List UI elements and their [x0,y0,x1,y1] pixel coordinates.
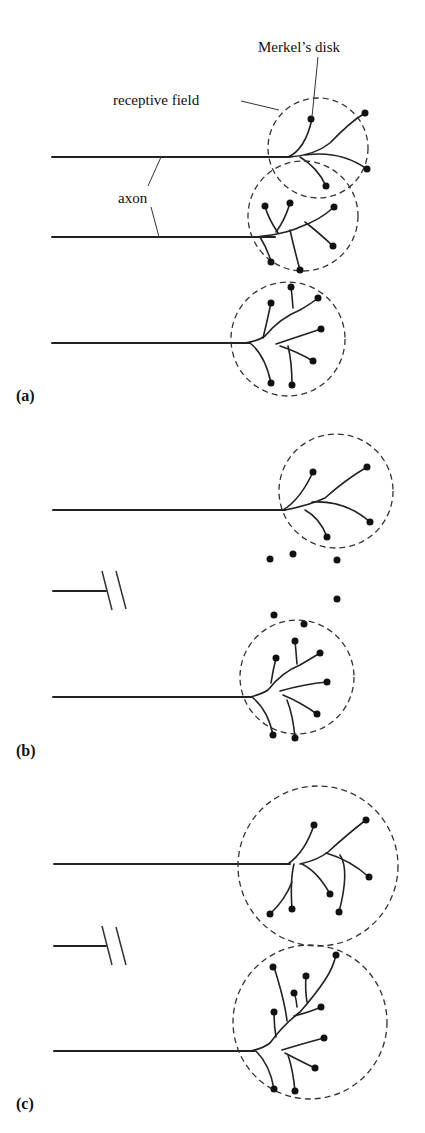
merkel-disk-denervated [301,621,308,628]
panel-b: (b) [16,434,393,760]
merkel-disk [271,1086,278,1093]
merkel-disk [310,469,317,476]
label-receptive-field: receptive field [113,92,200,108]
merkel-disk [363,817,370,824]
merkel-disk-denervated [271,612,278,619]
severed-axon-c [54,926,126,965]
merkel-disk [287,200,294,207]
receptive-field-circle [233,945,387,1099]
merkel-disk [273,655,280,662]
merkel-disk [321,1035,328,1042]
merkel-disk [324,679,331,686]
receptive-field-circle [240,620,354,734]
cut-mark-2 [116,571,126,609]
merkel-disk [312,1065,319,1072]
merkel-disk [262,203,269,210]
merkel-disk [333,952,340,959]
panel-label-a: (a) [16,387,35,405]
panel-label-b: (b) [16,742,36,760]
merkel-disk [336,909,343,916]
merkel-disk [315,295,322,302]
merkel-disk [366,874,373,881]
axon-unit-c1 [54,786,398,946]
merkel-disk [268,380,275,387]
merkels-disks [268,284,325,389]
merkel-disk [331,204,338,211]
leader-axon-lower [151,207,159,237]
receptive-field-circle [268,98,368,198]
merkels-disks [308,110,371,190]
merkel-disk [323,183,330,190]
merkels-disks [270,638,331,742]
merkel-disk [270,964,277,971]
denervated-merkels-disks [267,551,341,628]
merkel-disk [310,358,317,365]
nerve-terminal-branches [245,287,321,385]
merkel-disk [318,326,325,333]
merkel-receptive-field-figure: Merkel’s disk receptive field axon (a) [0,0,425,1133]
merkel-disk [303,973,310,980]
merkel-disk [268,300,275,307]
axon-unit-b1 [53,434,393,548]
merkel-disk-denervated [267,556,274,563]
panel-a: Merkel’s disk receptive field axon (a) [16,39,371,405]
leader-axon-upper [148,157,161,186]
merkel-disk [267,911,274,918]
label-merkels-disk: Merkel’s disk [258,39,341,55]
merkel-disk-denervated [334,596,341,603]
axon-unit-a1 [52,98,371,198]
axon-unit-a3 [52,282,345,396]
nerve-terminal-branches [270,820,369,914]
merkel-disk-denervated [290,551,297,558]
axon-unit-b2 [53,620,354,742]
merkel-disk [308,116,315,123]
merkel-disk [311,822,318,829]
panel-label-c: (c) [16,1095,34,1113]
merkel-disk-denervated [334,557,341,564]
merkel-disk [364,464,371,471]
merkel-disk [291,990,298,997]
axon-unit-a2 [52,161,358,274]
merkel-disk [292,1088,299,1095]
axon-unit-c2 [54,945,387,1099]
merkel-disk [330,243,337,250]
merkel-disk [362,110,369,117]
merkel-disk [289,906,296,913]
merkel-disk [364,166,371,173]
merkel-disk [289,382,296,389]
merkel-disk [314,711,321,718]
label-axon: axon [118,190,148,206]
severed-axon-b [53,571,126,610]
receptive-field-circle [279,434,393,548]
receptive-field-circle [248,161,358,271]
merkel-disk [324,534,331,541]
merkel-disk [367,519,374,526]
merkel-disk [317,650,324,657]
merkel-disk [327,891,334,898]
leader-receptive-field [241,101,279,110]
receptive-field-circle [231,282,345,396]
cut-mark-2 [116,927,126,965]
nerve-terminal-branches [283,467,370,537]
merkel-disk [270,732,277,739]
merkel-disk [292,638,299,645]
leader-merkels-disk [312,57,318,117]
merkel-disk [271,1009,278,1016]
nerve-terminal-branches [288,113,367,186]
nerve-terminal-branches [250,641,327,738]
merkel-disk [288,284,295,291]
receptive-field-circle [238,786,398,946]
nerve-terminal-branches [250,955,336,1091]
merkel-disk [318,1004,325,1011]
merkel-disk [292,735,299,742]
merkel-disk [297,267,304,274]
merkel-disk [268,259,275,266]
panel-c: (c) [16,786,398,1113]
